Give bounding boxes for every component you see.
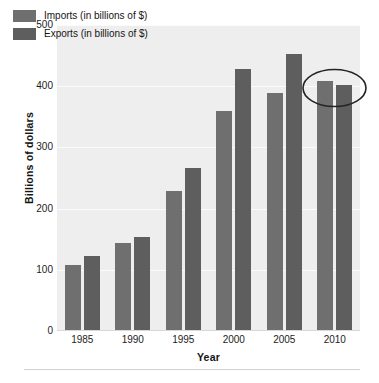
bar-imports-2005 xyxy=(267,93,283,331)
x-tick-label: 2000 xyxy=(211,334,257,345)
bar-group xyxy=(267,25,302,331)
x-axis-title: Year xyxy=(57,351,360,363)
chart-legend: Imports (in billions of $) Exports (in b… xyxy=(13,9,148,40)
x-tick-label: 2010 xyxy=(312,334,358,345)
footer-caption-fragment xyxy=(24,372,360,383)
y-tick-label: 100 xyxy=(25,265,53,275)
imports-swatch-icon xyxy=(13,10,36,22)
legend-label-exports: Exports (in billions of $) xyxy=(44,28,148,40)
x-axis-tick-labels: 198519901995200020052010 xyxy=(57,334,360,348)
bar-imports-1990 xyxy=(115,243,131,331)
bar-exports-1985 xyxy=(84,256,100,331)
exports-swatch-icon xyxy=(13,28,36,40)
y-tick-label: 400 xyxy=(25,81,53,91)
legend-item-imports: Imports (in billions of $) xyxy=(13,9,148,22)
gridline xyxy=(57,209,360,210)
legend-item-exports: Exports (in billions of $) xyxy=(13,27,148,40)
y-axis-tick-labels: 0100200300400500 xyxy=(22,0,53,383)
bar-exports-1995 xyxy=(185,168,201,331)
bar-exports-2010 xyxy=(336,85,352,331)
bar-chart-figure: Billions of dollars 0100200300400500 Imp… xyxy=(0,0,379,383)
plot-area xyxy=(57,25,360,331)
bar-imports-2000 xyxy=(216,111,232,331)
footer-divider xyxy=(24,369,360,370)
x-tick-label: 2005 xyxy=(261,334,307,345)
bar-imports-1995 xyxy=(166,191,182,331)
y-tick-label: 300 xyxy=(25,142,53,152)
axis-baseline xyxy=(57,330,360,331)
bar-group xyxy=(115,25,150,331)
bar-group xyxy=(216,25,251,331)
gridline xyxy=(57,270,360,271)
legend-label-imports: Imports (in billions of $) xyxy=(44,10,147,22)
y-tick-label: 200 xyxy=(25,204,53,214)
bar-imports-2010 xyxy=(317,81,333,331)
bar-exports-1990 xyxy=(134,237,150,331)
bar-group xyxy=(317,25,352,331)
bar-exports-2000 xyxy=(235,69,251,331)
x-tick-label: 1985 xyxy=(59,334,105,345)
bar-exports-2005 xyxy=(286,54,302,331)
bar-group xyxy=(166,25,201,331)
y-tick-label: 0 xyxy=(25,326,53,336)
x-tick-label: 1995 xyxy=(160,334,206,345)
bar-imports-1985 xyxy=(65,265,81,331)
gridline xyxy=(57,147,360,148)
x-tick-label: 1990 xyxy=(110,334,156,345)
gridline xyxy=(57,86,360,87)
bar-group xyxy=(65,25,100,331)
